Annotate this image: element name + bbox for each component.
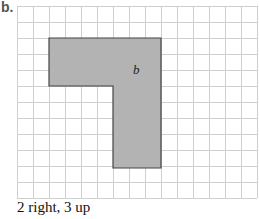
grid-diagram: b [0, 0, 259, 219]
caption: 2 right, 3 up [17, 199, 90, 216]
shape-label: b [133, 62, 140, 77]
